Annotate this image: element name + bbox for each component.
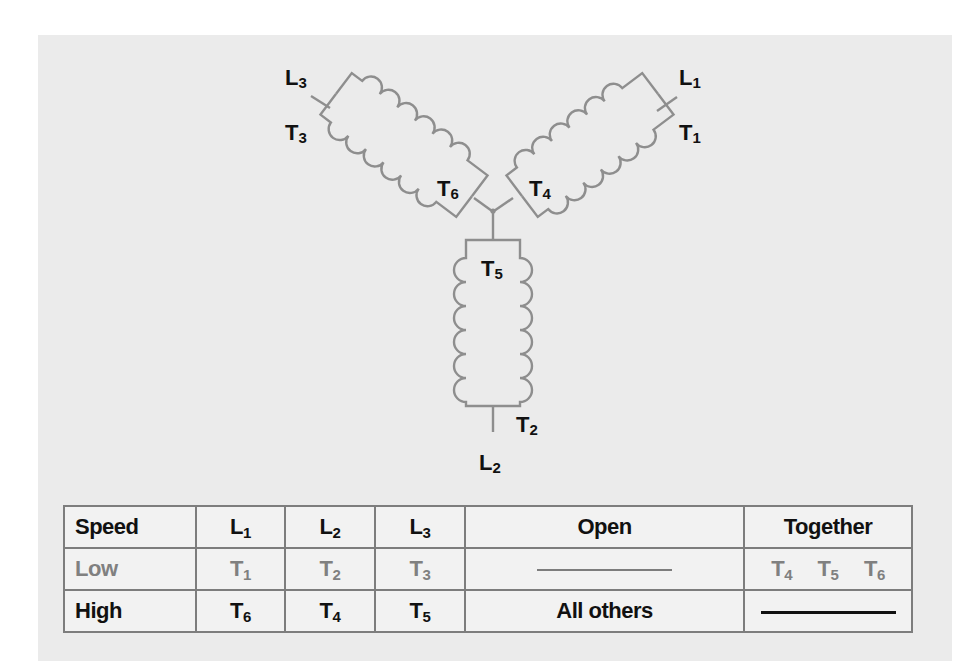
cell-speed: Low [64,548,196,590]
wire-t4 [494,198,513,211]
cell-speed: High [64,590,196,632]
cell-l3: T5 [375,590,465,632]
coil-right [500,64,680,225]
label-t1: T1 [679,120,701,146]
label-t3: T3 [285,120,307,146]
coil-left [314,64,494,225]
star-point [490,208,495,213]
label-t5: T5 [481,256,503,282]
cell-l3: T3 [375,548,465,590]
term-t4: T4 [771,556,792,581]
none-dash [761,611,896,614]
label-t2: T2 [516,412,538,438]
term-t6: T6 [864,556,885,581]
header-l3: L3 [375,506,465,548]
table-row-low: Low T1 T2 T3 T4 T5 T6 [64,548,912,590]
label-t6: T6 [437,176,459,202]
table-header-row: Speed L1 L2 L3 Open Together [64,506,912,548]
lead-l3 [311,96,330,108]
cell-open: All others [465,590,744,632]
header-l2: L2 [285,506,375,548]
connection-table: Speed L1 L2 L3 Open Together Low T1 T2 T… [63,505,913,633]
cell-together: T4 T5 T6 [744,548,912,590]
none-dash [537,569,672,571]
cell-l1: T1 [196,548,285,590]
cell-together [744,590,912,632]
header-together: Together [744,506,912,548]
cell-open [465,548,744,590]
label-t4: T4 [529,176,551,202]
header-l1: L1 [196,506,285,548]
term-t5: T5 [818,556,839,581]
header-open: Open [465,506,744,548]
cell-l2: T4 [285,590,375,632]
wire-t6 [474,198,492,211]
label-l3: L3 [285,65,307,91]
lead-l1 [657,97,677,111]
cell-l1: T6 [196,590,285,632]
header-speed: Speed [64,506,196,548]
table-row-high: High T6 T4 T5 All others [64,590,912,632]
label-l1: L1 [679,65,701,91]
cell-l2: T2 [285,548,375,590]
label-l2: L2 [479,450,501,476]
